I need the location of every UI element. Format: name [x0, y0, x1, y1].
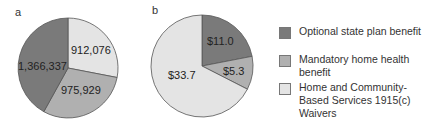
legend-item-optional: Optional state plan benefit: [279, 25, 439, 39]
legend-item-mandatory: Mandatory home health benefit: [279, 53, 439, 79]
swatch-mandatory-icon: [279, 55, 291, 67]
label-mandatory-a: 975,929: [61, 84, 101, 96]
legend-label-optional: Optional state plan benefit: [299, 25, 421, 38]
label-optional-a: 1,366,337: [18, 60, 67, 72]
label-mandatory-b: $5.3: [223, 65, 244, 77]
swatch-hcbs-icon: [279, 83, 291, 95]
pie-chart-b: $11.0 $5.3 $33.7: [132, 0, 272, 126]
legend-label-mandatory: Mandatory home health benefit: [299, 53, 439, 79]
label-hcbs-a: 912,076: [71, 44, 111, 56]
label-hcbs-b: $33.7: [168, 69, 196, 81]
legend-item-hcbs: Home and Community-Based Services 1915(c…: [279, 81, 429, 120]
swatch-optional-icon: [279, 27, 291, 39]
legend-label-hcbs: Home and Community-Based Services 1915(c…: [299, 81, 429, 120]
pie-chart-a: 912,076 975,929 1,366,337: [0, 0, 140, 126]
label-optional-b: $11.0: [207, 35, 234, 47]
